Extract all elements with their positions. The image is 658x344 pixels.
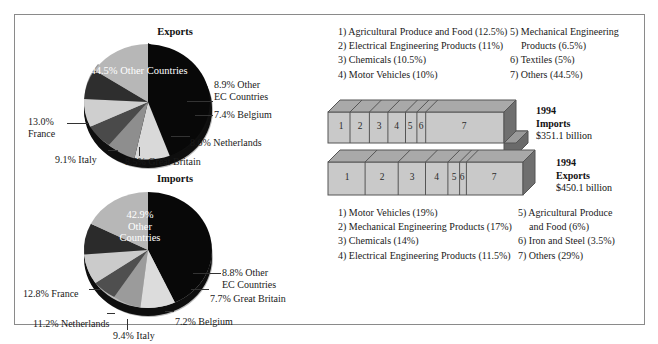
legend-item: 5) Agricultural Produce [518,206,638,220]
imports-label-other-ec: 8.8% Other EC Countries [222,267,276,290]
imports-legend-col-left: 1) Agricultural Produce and Food (12.5%)… [338,25,510,82]
imports-label-great-britain: 7.7% Great Britain [210,293,286,305]
legend-item: 1) Agricultural Produce and Food (12.5%) [338,25,510,39]
figure-frame: Exports [14,14,645,325]
imports-bar-segment-2: 2 [351,121,369,131]
exports-label-great-britain: 8.5% Great Britain [125,156,201,168]
exports-bar-kind: Exports [556,170,612,183]
imports-bar-segment-1: 1 [332,121,350,131]
exports-pie-slices [81,39,219,169]
exports-bar-segment-2: 2 [373,172,391,182]
imports-label-netherlands: 11.2% Netherlands [33,318,109,330]
exports-center-label: 44.5% Other Countries [88,65,190,77]
imports-label-belgium: 7.2% Belgium [175,316,233,328]
exports-label-italy: 9.1% Italy [55,154,97,166]
imports-pie-graphic [81,187,219,317]
exports-legend-col-right: 5) Agricultural Produce and Food (6%) 6)… [518,206,638,263]
legend-item: 3) Chemicals (14%) [338,234,518,248]
legend-item-cont: and Food (6%) [518,220,638,234]
legend-item: 1) Motor Vehicles (19%) [338,206,518,220]
exports-bar-caption: 1994 Exports $450.1 billion [556,157,612,195]
exports-bar-segment-7: 7 [486,172,502,182]
exports-pie-chart: Exports [15,15,335,180]
imports-legend-col-right: 5) Mechanical Engineering Products (6.5%… [510,25,638,82]
imports-bar-year: 1994 [536,105,592,118]
legend-item: 2) Electrical Engineering Products (11%) [338,39,510,53]
legend-item: 2) Mechanical Engineering Products (17%) [338,220,518,234]
exports-label-france: 13.0% France [28,116,55,139]
legend-item-cont: Products (6.5%) [510,39,638,53]
exports-bar-segment-3: 3 [403,172,421,182]
imports-legend: 1) Agricultural Produce and Food (12.5%)… [338,25,638,82]
exports-bar-value: $450.1 billion [556,182,612,195]
legend-item: 3) Chemicals (10.5%) [338,53,510,67]
exports-bar-segment-6: 6 [454,172,470,182]
imports-bar-value: $351.1 billion [536,130,592,143]
exports-bar-segment-1: 1 [338,172,356,182]
legend-item: 6) Textiles (5%) [510,53,638,67]
exports-bar-year: 1994 [556,157,612,170]
exports-label-other-ec: 8.9% Other EC Countries [214,79,268,102]
exports-legend: 1) Motor Vehicles (19%) 2) Mechanical En… [338,206,638,263]
imports-label-france: 12.8% France [23,288,79,300]
imports-label-italy: 9.4% Italy [113,330,155,342]
exports-bar-segment-4: 4 [428,172,445,182]
exports-legend-col-left: 1) Motor Vehicles (19%) 2) Mechanical En… [338,206,518,263]
imports-pie-chart: Imports [15,173,335,325]
imports-bar-segment-7: 7 [456,121,472,131]
imports-pie-slices [81,187,219,317]
imports-center-label: 42.9% Other Countries [100,209,180,244]
legend-item: 4) Electrical Engineering Products (11.5… [338,249,518,263]
imports-bar-kind: Imports [536,118,592,131]
exports-label-netherlands: 8.6% Netherlands [190,137,262,149]
legend-item: 4) Motor Vehicles (10%) [338,68,510,82]
exports-bar-chart: 1 2 3 4 5 6 7 1994 Exports $450.1 billio… [320,145,650,207]
imports-bar-segment-3: 3 [370,121,388,131]
exports-label-belgium: 7.4% Belgium [214,109,272,121]
exports-pie-graphic [81,39,219,169]
legend-item: 7) Others (29%) [518,249,638,263]
imports-bar-segment-6: 6 [413,121,429,131]
imports-bar-caption: 1994 Imports $351.1 billion [536,105,592,143]
legend-item: 6) Iron and Steel (3.5%) [518,234,638,248]
legend-item: 7) Others (44.5%) [510,68,638,82]
exports-pie-title: Exports [15,26,335,37]
legend-item: 5) Mechanical Engineering [510,25,638,39]
imports-pie-title: Imports [15,173,335,184]
